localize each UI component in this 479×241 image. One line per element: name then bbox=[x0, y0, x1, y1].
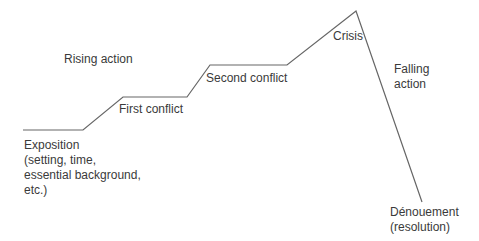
label-denouement: Dénouement (resolution) bbox=[390, 205, 459, 235]
label-first-conflict: First conflict bbox=[119, 102, 183, 117]
label-crisis: Crisis bbox=[333, 29, 363, 44]
label-falling-action: Falling action bbox=[394, 62, 429, 92]
label-exposition: Exposition (setting, time, essential bac… bbox=[24, 138, 141, 198]
label-second-conflict: Second conflict bbox=[206, 71, 287, 86]
label-rising-action: Rising action bbox=[64, 52, 133, 67]
